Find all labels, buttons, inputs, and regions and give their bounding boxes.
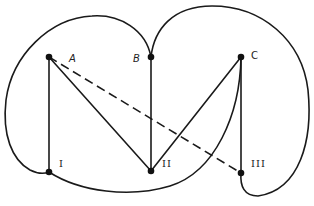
graph-diagram: A B C I II III (0, 0, 314, 206)
node-III (238, 170, 245, 177)
edge-C-II (151, 57, 241, 171)
node-A (46, 54, 53, 61)
graph-svg (0, 0, 314, 206)
label-I: I (59, 159, 64, 169)
edge-I-C-curve (49, 57, 241, 192)
node-II (148, 168, 155, 175)
label-III: III (251, 159, 266, 169)
label-B: B (133, 54, 140, 64)
node-C (238, 54, 245, 61)
edge-A-II (49, 57, 151, 171)
node-I (46, 169, 53, 176)
edge-B-I-curve (5, 16, 151, 173)
edge-A-III-dashed (49, 57, 241, 173)
edge-B-III-curve (151, 6, 309, 196)
label-A: A (69, 54, 76, 64)
node-B (148, 54, 155, 61)
label-II: II (162, 159, 172, 169)
label-C: C (251, 51, 258, 61)
